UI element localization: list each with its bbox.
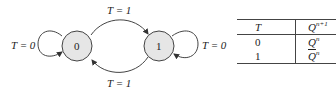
- label-t0-right: T = 0: [202, 39, 227, 51]
- cell-q-base-complement: Q: [308, 50, 316, 62]
- table-header-row: T Qn+1: [237, 20, 336, 35]
- header-t: T: [237, 20, 296, 35]
- header-q: Qn+1: [296, 20, 336, 35]
- label-t0-left: T = 0: [11, 39, 36, 51]
- self-loop-0: [38, 31, 62, 56]
- transition-0-to-1: [91, 20, 148, 35]
- transition-1-to-0: [92, 57, 148, 72]
- self-loop-1: [172, 31, 198, 58]
- truth-table: T Qn+1 0 Qn 1 Qn: [237, 19, 336, 64]
- cell-q-sup: n: [316, 35, 320, 43]
- header-q-base: Q: [308, 21, 316, 33]
- label-t1-bottom: T = 1: [107, 77, 131, 89]
- cell-q: Qn: [296, 35, 336, 50]
- cell-q-sup: n: [316, 49, 320, 57]
- state-1-label: 1: [156, 40, 162, 52]
- cell-t: 1: [237, 49, 296, 64]
- table-row: 0 Qn: [237, 35, 336, 50]
- header-q-sup: n+1: [316, 20, 328, 28]
- state-0-label: 0: [74, 40, 80, 52]
- cell-t: 0: [237, 35, 296, 50]
- label-t1-top: T = 1: [107, 4, 131, 16]
- cell-q: Qn: [296, 49, 336, 64]
- cell-q-base: Q: [308, 36, 316, 48]
- table-row: 1 Qn: [237, 49, 336, 64]
